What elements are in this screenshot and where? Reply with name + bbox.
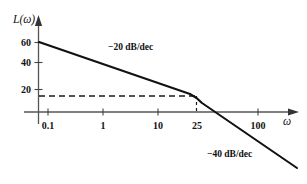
slope-annotation-20db: −20 dB/dec (108, 43, 153, 53)
x-tick-label-1: 1 (91, 121, 115, 131)
y-tick-label-20: 20 (6, 85, 31, 95)
plot-canvas (0, 0, 307, 184)
bode-magnitude-plot: L(ω) ω 20 40 60 0.1 1 10 25 100 −20 dB/d… (0, 0, 307, 184)
x-tick-label-10: 10 (146, 121, 170, 131)
y-axis-arrow-icon (35, 15, 42, 26)
x-tick-label-100: 100 (245, 121, 271, 131)
slope-annotation-40db: −40 dB/dec (207, 150, 252, 160)
x-tick-label-25: 25 (185, 121, 209, 131)
y-tick-label-60: 60 (6, 38, 31, 48)
y-axis-label: L(ω) (13, 14, 35, 26)
x-axis-label: ω (283, 116, 291, 128)
magnitude-curve (39, 42, 297, 168)
y-tick-label-40: 40 (6, 58, 31, 68)
x-tick-label-0.1: 0.1 (33, 121, 63, 131)
